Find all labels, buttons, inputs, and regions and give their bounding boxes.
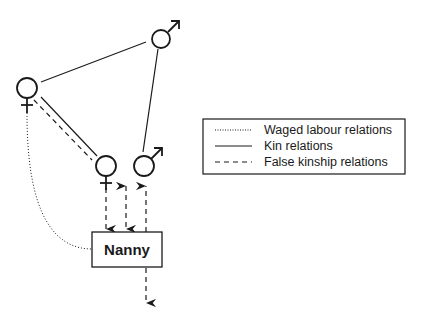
legend-label-waged-labour: Waged labour relations	[264, 123, 392, 137]
kin-edge-male-top-to-male-middle	[143, 49, 158, 152]
legend-label-kin: Kin relations	[264, 139, 333, 153]
female-left-icon	[17, 78, 37, 113]
waged-labour-edge-female-left-to-nanny	[27, 113, 91, 249]
kin-edge-female-left-to-female-middle	[41, 97, 97, 156]
kin-edge-female-left-to-male-top	[41, 42, 146, 82]
nanny-node: Nanny	[92, 232, 162, 267]
nanny-label: Nanny	[104, 241, 151, 258]
legend-label-false-kinship: False kinship relations	[264, 155, 388, 169]
false-kinship-edge-female-left-to-female-middle	[34, 100, 92, 160]
female-middle-icon	[96, 156, 116, 190]
kinship-diagram: Nanny Waged labour relations Kin relatio…	[0, 0, 423, 313]
kin-edges	[41, 42, 158, 156]
legend: Waged labour relations Kin relations Fal…	[203, 119, 405, 174]
male-top-icon	[152, 21, 179, 48]
male-middle-icon	[134, 148, 162, 176]
